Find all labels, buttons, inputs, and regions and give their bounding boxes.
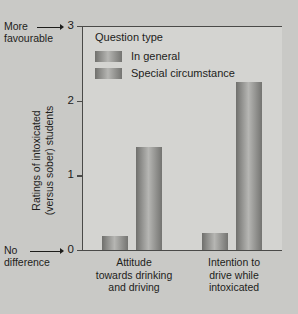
x-category-label-0-line2: towards drinking — [82, 269, 186, 282]
y-axis-title-line1: Ratings of intoxicated — [30, 81, 43, 241]
x-category-label-0: Attitude towards drinking and driving — [82, 256, 186, 294]
arrow-head-top-icon — [60, 24, 64, 30]
x-category-label-0-line1: Attitude — [82, 256, 186, 269]
x-category-label-1-line2: drive while — [182, 269, 286, 282]
annotation-more-favourable: More favourable — [4, 21, 53, 44]
annotation-more-favourable-line2: favourable — [4, 33, 53, 45]
y-axis-title-line2: (versus sober) students — [42, 81, 55, 241]
bar-group1-special-circumstance — [236, 82, 262, 250]
y-axis-title: Ratings of intoxicated (versus sober) st… — [30, 81, 55, 241]
annotation-no-difference-line2: difference — [4, 257, 50, 269]
x-category-label-1: Intention to drive while intoxicated — [182, 256, 286, 294]
bar-group1-in-general — [202, 233, 228, 250]
x-category-label-1-line3: intoxicated — [182, 281, 286, 294]
x-axis-line — [82, 250, 282, 251]
x-category-label-1-line1: Intention to — [182, 256, 286, 269]
annotation-no-difference: No difference — [4, 245, 50, 268]
arrow-head-bottom-icon — [60, 248, 64, 254]
y-tick-mark-0 — [77, 250, 82, 251]
arrow-line-top — [37, 27, 61, 28]
arrow-line-bottom — [30, 251, 61, 252]
bar-group0-in-general — [102, 236, 128, 250]
bar-group0-special-circumstance — [136, 147, 162, 250]
bars-layer — [82, 26, 282, 250]
bar-chart-figure: 3 2 1 0 More favourable No difference Ra… — [0, 0, 298, 314]
y-tick-label-1: 1 — [58, 169, 74, 181]
x-category-label-0-line3: and driving — [82, 281, 186, 294]
y-tick-label-2: 2 — [58, 95, 74, 107]
